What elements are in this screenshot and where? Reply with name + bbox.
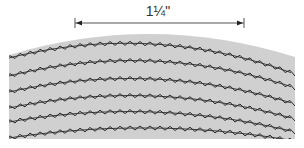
zigzag-stitch-diagram bbox=[0, 0, 304, 148]
arrow-left-icon bbox=[76, 21, 82, 26]
dimension-label: 1¼" bbox=[0, 3, 304, 19]
dimension-text: 1¼" bbox=[146, 3, 170, 19]
arrow-right-icon bbox=[237, 21, 243, 26]
dimension-arrow bbox=[75, 18, 244, 28]
